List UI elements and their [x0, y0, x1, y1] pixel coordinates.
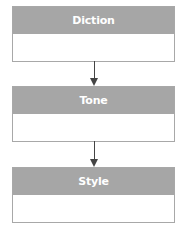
arrow-diction-to-tone [89, 61, 100, 86]
arrow-down-icon [90, 78, 98, 86]
arrow-line [94, 61, 95, 79]
arrow-tone-to-style [89, 141, 100, 167]
node-tone: Tone [12, 86, 175, 142]
arrow-line [94, 141, 95, 160]
node-diction: Diction [12, 6, 175, 62]
arrow-down-icon [90, 159, 98, 167]
node-style-header: Style [13, 168, 174, 195]
node-diction-body [13, 34, 174, 61]
node-style-body [13, 195, 174, 222]
node-style: Style [12, 167, 175, 223]
node-tone-body [13, 114, 174, 141]
node-tone-header: Tone [13, 87, 174, 114]
node-diction-header: Diction [13, 7, 174, 34]
